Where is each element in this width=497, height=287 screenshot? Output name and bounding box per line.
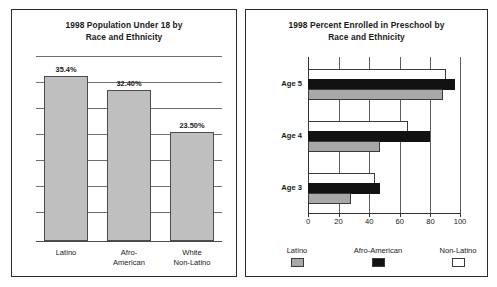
bar-afro-american — [107, 90, 151, 241]
bar-white-non-latino — [170, 132, 214, 241]
legend-item-latino: Latino — [262, 246, 332, 267]
bar-value-label: 35.4% — [44, 65, 88, 74]
figure-root: 1998 Population Under 18 by Race and Eth… — [0, 0, 497, 287]
x-tick-label-40: 40 — [365, 217, 373, 226]
legend-item-afro-american: Afro-American — [332, 246, 424, 267]
chart-panel-preschool: 1998 Percent Enrolled in Preschool by Ra… — [245, 9, 488, 277]
chart-panel-population: 1998 Population Under 18 by Race and Eth… — [11, 9, 237, 277]
bar-latino — [44, 76, 88, 241]
y-tick-label-age3: Age 3 — [281, 183, 302, 192]
x-tick-label-20: 20 — [334, 217, 342, 226]
x-tick-label-80: 80 — [426, 217, 434, 226]
bar-value-label: 32.40% — [107, 79, 151, 88]
bar-age5-latino — [308, 89, 443, 100]
legend-label-afro-american: Afro-American — [332, 246, 424, 255]
chart-legend: Latino Afro-American Non-Latino — [262, 246, 477, 274]
plot-area-preschool: Age 5 Age 4 Age 3 0 20 40 60 — [308, 57, 461, 213]
legend-label-latino: Latino — [262, 246, 332, 255]
chart-title-line2: Race and Ethnicity — [86, 32, 163, 42]
chart-title-population: 1998 Population Under 18 by Race and Eth… — [12, 20, 236, 43]
x-tick-label-60: 60 — [396, 217, 404, 226]
legend-swatch-latino — [291, 258, 304, 267]
bar-age3-latino — [308, 193, 351, 204]
legend-swatch-non-latino — [452, 258, 465, 267]
plot-area-population: 35.4% 32.40% 23.50% Latino Afro- America… — [36, 56, 222, 242]
legend-item-non-latino: Non-Latino — [422, 246, 494, 267]
chart-title-preschool: 1998 Percent Enrolled in Preschool by Ra… — [246, 20, 487, 43]
bar-value-label: 23.50% — [170, 121, 214, 130]
x-tick-label-0: 0 — [306, 217, 310, 226]
legend-swatch-afro-american — [372, 258, 385, 267]
gridline — [460, 57, 461, 213]
y-tick-label-age5: Age 5 — [281, 79, 302, 88]
gridline — [36, 56, 222, 57]
chart-title-line1: 1998 Population Under 18 by — [65, 20, 182, 30]
x-tick-label-white-non-latino: White Non-Latino — [154, 248, 230, 267]
x-axis-line — [308, 213, 461, 214]
y-tick-label-age4: Age 4 — [281, 131, 302, 140]
legend-label-non-latino: Non-Latino — [422, 246, 494, 255]
x-axis-line — [36, 241, 222, 242]
chart-title-line1: 1998 Percent Enrolled in Preschool by — [289, 20, 445, 30]
bar-age4-latino — [308, 141, 380, 152]
x-tick-label-100: 100 — [454, 217, 467, 226]
chart-title-line2: Race and Ethnicity — [328, 32, 405, 42]
